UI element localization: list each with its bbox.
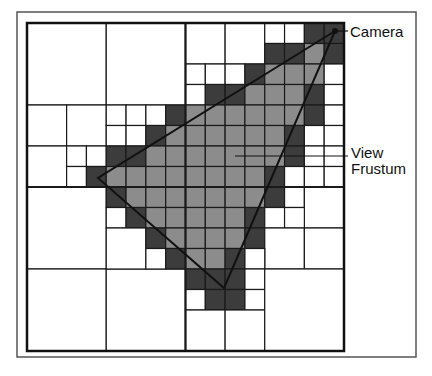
quadtree-cell-white (324, 64, 344, 85)
quadtree-cell-light (166, 187, 186, 208)
quadtree-cell-dark (304, 105, 324, 126)
quadtree-cell-white (205, 64, 225, 85)
quadtree-cell-white (265, 208, 285, 229)
quadtree-cell-white (67, 105, 107, 146)
quadtree-cell-light (245, 126, 265, 147)
quadtree-cell-white (304, 167, 324, 188)
quadtree-cell-white (225, 310, 265, 351)
quadtree-cell-dark (225, 290, 245, 311)
quadtree-cell-light (245, 105, 265, 126)
quadtree-cell-white (126, 105, 146, 126)
quadtree-cell-dark (205, 290, 225, 311)
quadtree-cell-white (285, 208, 305, 229)
quadtree-cell-white (86, 146, 106, 167)
quadtree-cell-light (146, 167, 166, 188)
quadtree-cell-white (324, 105, 344, 126)
quadtree-cell-white (106, 269, 185, 351)
quadtree-cell-light (186, 126, 206, 147)
quadtree-cell-dark (265, 44, 285, 65)
quadtree-cell-white (106, 105, 126, 126)
quadtree-cell-white (106, 23, 185, 105)
quadtree-cell-white (245, 249, 265, 270)
quadtree-cell-light (205, 187, 225, 208)
quadtree-cell-white (324, 126, 344, 147)
quadtree-cell-dark (225, 249, 245, 270)
quadtree-cell-white (245, 269, 265, 290)
quadtree-cell-light (285, 85, 305, 106)
quadtree-cell-light (146, 146, 166, 167)
quadtree-cell-light (146, 208, 166, 229)
quadtree-cell-dark (265, 187, 285, 208)
quadtree-cell-light (225, 187, 245, 208)
quadtree-cell-white (304, 228, 344, 269)
quadtree-cell-light (186, 228, 206, 249)
quadtree-cell-light (265, 85, 285, 106)
quadtree-cell-light (186, 146, 206, 167)
quadtree-cell-white (106, 228, 146, 269)
quadtree-cell-light (205, 228, 225, 249)
quadtree-cell-light (205, 249, 225, 270)
view-frustum-label-line2: Frustum (351, 161, 406, 176)
quadtree-cell-light (166, 167, 186, 188)
quadtree-cell-light (126, 167, 146, 188)
quadtree-cell-white (146, 105, 166, 126)
quadtree-cell-white (245, 290, 265, 311)
quadtree-cell-white (67, 146, 87, 167)
quadtree-cell-light (245, 167, 265, 188)
quadtree-cell-dark (146, 228, 166, 249)
quadtree-cell-white (304, 126, 324, 147)
quadtree-cell-light (166, 126, 186, 147)
quadtree-cell-light (285, 64, 305, 85)
quadtree-cell-light (225, 208, 245, 229)
quadtree-cell-light (205, 126, 225, 147)
quadtree-cell-light (205, 167, 225, 188)
quadtree-cell-white (186, 85, 206, 106)
quadtree-cell-white (265, 23, 285, 44)
quadtree-cell-light (245, 187, 265, 208)
quadtree-cell-white (304, 187, 344, 228)
quadtree-cell-light (186, 249, 206, 270)
view-frustum-label-line1: View (351, 145, 383, 160)
quadtree-cell-white (186, 64, 206, 85)
quadtree-cell-light (205, 105, 225, 126)
quadtree-cell-light (225, 167, 245, 188)
quadtree-cell-white (27, 105, 67, 146)
quadtree-cell-dark (186, 269, 206, 290)
quadtree-cell-white (106, 126, 126, 147)
quadtree-cell-white (225, 64, 245, 85)
quadtree-cell-white (186, 23, 226, 64)
quadtree-cell-light (186, 187, 206, 208)
quadtree-cell-white (285, 23, 305, 44)
quadtree-diagram (0, 0, 432, 376)
quadtree-cell-white (285, 167, 305, 188)
quadtree-cell-white (27, 23, 106, 105)
quadtree-cell-white (126, 126, 146, 147)
quadtree-cell-light (186, 208, 206, 229)
quadtree-cell-white (27, 187, 106, 269)
quadtree-cell-dark (166, 105, 186, 126)
quadtree-cell-white (285, 187, 305, 208)
quadtree-cell-white (225, 23, 265, 64)
quadtree-cell-white (265, 228, 305, 269)
quadtree-cell-light (106, 167, 126, 188)
quadtree-cell-light (225, 126, 245, 147)
quadtree-cell-white (186, 290, 206, 311)
quadtree-cell-light (186, 167, 206, 188)
quadtree-cell-white (146, 249, 166, 270)
quadtree-cell-white (27, 269, 106, 351)
quadtree-cell-white (324, 85, 344, 106)
quadtree-cell-white (27, 146, 67, 187)
quadtree-cell-white (67, 167, 87, 188)
quadtree-cell-light (166, 146, 186, 167)
quadtree-cell-white (186, 310, 226, 351)
quadtree-cell-light (146, 187, 166, 208)
quadtree-cell-dark (324, 44, 344, 65)
quadtree-cell-light (265, 126, 285, 147)
quadtree-cell-light (225, 105, 245, 126)
quadtree-cell-white (324, 167, 344, 188)
quadtree-cell-light (205, 208, 225, 229)
camera-label: Camera (350, 24, 403, 39)
quadtree-cell-dark (106, 187, 126, 208)
quadtree-cell-white (265, 269, 344, 351)
quadtree-cell-white (106, 208, 126, 229)
